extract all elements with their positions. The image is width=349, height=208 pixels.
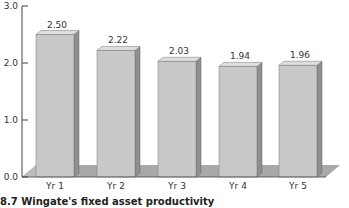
bar-3 [158, 61, 196, 177]
x-axis-category-label: Yr 2 [106, 181, 125, 191]
bar-value-label: 2.22 [108, 35, 128, 45]
x-axis-category-label: Yr 4 [228, 181, 247, 191]
chart-floor-left-wedge [22, 165, 36, 177]
bar-side-face [135, 46, 140, 177]
bar-5 [279, 65, 317, 177]
bar-side-face [196, 57, 201, 177]
bar-top-face [279, 61, 322, 65]
y-axis-tick-label: 1.0 [4, 115, 19, 125]
bar-top-face [219, 62, 262, 66]
x-axis-category-label: Yr 1 [45, 181, 64, 191]
figure-caption: 8.7 Wingate's fixed asset productivity [0, 196, 214, 207]
y-axis-tick-label: 0.0 [4, 172, 19, 182]
bar-top-face [36, 31, 79, 35]
x-axis-category-label: Yr 5 [288, 181, 307, 191]
bar-side-face [317, 61, 322, 177]
bar-value-label: 2.50 [47, 20, 67, 30]
y-axis-tick-label: 2.0 [4, 58, 19, 68]
bar-top-face [158, 57, 201, 61]
bar-2 [97, 50, 135, 177]
bar-top-face [97, 46, 140, 50]
x-axis-category-label: Yr 3 [167, 181, 186, 191]
bar-side-face [257, 62, 262, 177]
bar-chart: 2.50Yr 12.22Yr 22.03Yr 31.94Yr 41.96Yr 5… [0, 0, 349, 208]
bar-1 [36, 35, 74, 178]
y-axis-tick-label: 3.0 [4, 1, 19, 11]
bar-4 [219, 66, 257, 177]
bar-value-label: 1.94 [230, 51, 250, 61]
bar-side-face [74, 31, 79, 178]
bar-value-label: 1.96 [290, 50, 310, 60]
bar-value-label: 2.03 [169, 46, 189, 56]
